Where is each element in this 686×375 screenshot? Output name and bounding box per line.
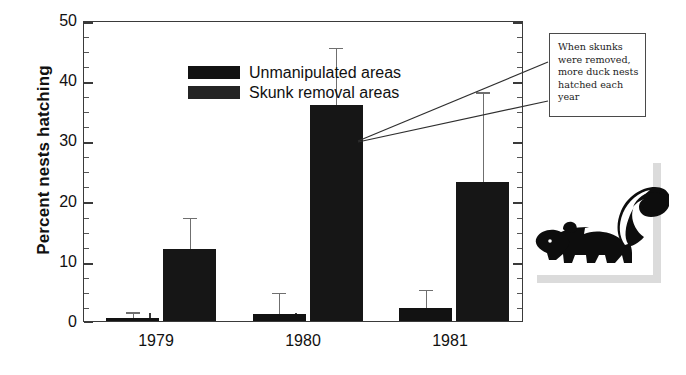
y-tick-minor-right: [517, 187, 522, 188]
callout-line-3: more duck nests: [558, 66, 639, 79]
y-tick-minor: [84, 308, 89, 309]
legend-label-unmanipulated: Unmanipulated areas: [249, 65, 401, 81]
y-tick-minor-right: [517, 52, 522, 53]
error-cap-1979-unmanipulated: [126, 312, 140, 313]
y-tick-minor-right: [517, 293, 522, 294]
y-tick-minor: [84, 187, 89, 188]
error-bar-1980-unmanipulated: [279, 294, 280, 314]
y-tick-minor: [84, 248, 89, 249]
y-tick-minor-right: [517, 97, 522, 98]
y-tick-label-50: 50: [37, 13, 77, 29]
y-tick-minor-right: [517, 172, 522, 173]
callout-line-1: When skunks: [558, 41, 639, 54]
y-tick-minor: [84, 218, 89, 219]
bar-1981-skunk-removal: [456, 182, 509, 321]
y-tick-major-right: [513, 82, 522, 84]
y-tick-label-10: 10: [37, 254, 77, 270]
y-tick-major-right: [513, 142, 522, 144]
y-tick-major-10: [84, 263, 93, 265]
y-tick-major-30: [84, 142, 93, 144]
x-axis-label-1979: 1979: [111, 332, 201, 350]
error-bar-1979-skunk-removal: [190, 219, 191, 249]
callout-line-2: were removed,: [558, 54, 639, 67]
y-tick-minor-right: [517, 278, 522, 279]
y-tick-minor: [84, 278, 89, 279]
error-cap-1979-skunk-removal: [183, 218, 197, 219]
y-tick-major-right: [513, 263, 522, 265]
y-tick-minor-right: [517, 112, 522, 113]
bar-1979-skunk-removal: [163, 249, 216, 321]
y-tick-major-right: [513, 202, 522, 204]
y-axis-title: Percent nests hatching: [34, 30, 54, 290]
x-axis-label-1981: 1981: [405, 332, 495, 350]
y-tick-minor-right: [517, 127, 522, 128]
y-tick-minor-right: [517, 233, 522, 234]
error-cap-1980-skunk-removal: [329, 48, 343, 49]
plot-area: Unmanipulated areas Skunk removal areas: [83, 21, 523, 322]
y-tick-minor: [84, 233, 89, 234]
y-tick-minor: [84, 112, 89, 113]
y-tick-major-right: [513, 22, 522, 24]
x-axis-label-1980: 1980: [258, 332, 348, 350]
error-bar-1979-unmanipulated: [133, 314, 134, 318]
y-tick-minor: [84, 67, 89, 68]
error-cap-1981-unmanipulated: [419, 290, 433, 291]
legend-item-unmanipulated: Unmanipulated areas: [188, 64, 401, 81]
y-tick-minor-right: [517, 37, 522, 38]
y-tick-minor-right: [517, 67, 522, 68]
annotation-callout: When skunks were removed, more duck nest…: [549, 33, 646, 117]
y-tick-minor: [84, 52, 89, 53]
legend-item-skunk-removal: Skunk removal areas: [188, 84, 401, 101]
y-tick-major-20: [84, 202, 93, 204]
callout-line-5: year: [558, 91, 639, 104]
legend-swatch-unmanipulated: [188, 66, 240, 79]
y-tick-major-0: [84, 321, 93, 323]
y-tick-minor-right: [517, 308, 522, 309]
legend-swatch-skunk-removal: [188, 86, 240, 99]
y-tick-minor: [84, 293, 89, 294]
bar-1980-unmanipulated: [253, 314, 306, 321]
y-tick-minor-right: [517, 218, 522, 219]
skunk-icon: [529, 155, 669, 290]
bar-1980-skunk-removal: [310, 105, 363, 321]
y-tick-label-40: 40: [37, 73, 77, 89]
y-tick-label-30: 30: [37, 133, 77, 149]
bar-1981-unmanipulated: [399, 308, 452, 321]
y-tick-minor: [84, 97, 89, 98]
y-tick-minor: [84, 172, 89, 173]
y-tick-major-40: [84, 82, 93, 84]
bar-1979-unmanipulated: [106, 318, 159, 321]
y-tick-label-20: 20: [37, 194, 77, 210]
error-bar-1981-unmanipulated: [426, 291, 427, 308]
error-cap-1981-skunk-removal: [476, 92, 490, 93]
error-bar-1981-skunk-removal: [483, 94, 484, 182]
legend-label-skunk-removal: Skunk removal areas: [249, 85, 399, 101]
y-tick-minor: [84, 127, 89, 128]
y-tick-minor: [84, 157, 89, 158]
skunk-illustration: [529, 155, 669, 290]
y-tick-minor-right: [517, 248, 522, 249]
y-tick-minor-right: [517, 157, 522, 158]
y-tick-minor: [84, 37, 89, 38]
y-tick-label-0: 0: [37, 314, 77, 330]
y-tick-major-50: [84, 22, 93, 24]
chart-legend: Unmanipulated areas Skunk removal areas: [188, 64, 401, 104]
error-cap-1980-unmanipulated: [272, 293, 286, 294]
chart-figure: Percent nests hatching 50 40 30 20 10 0: [0, 0, 686, 375]
callout-line-4: hatched each: [558, 79, 639, 92]
